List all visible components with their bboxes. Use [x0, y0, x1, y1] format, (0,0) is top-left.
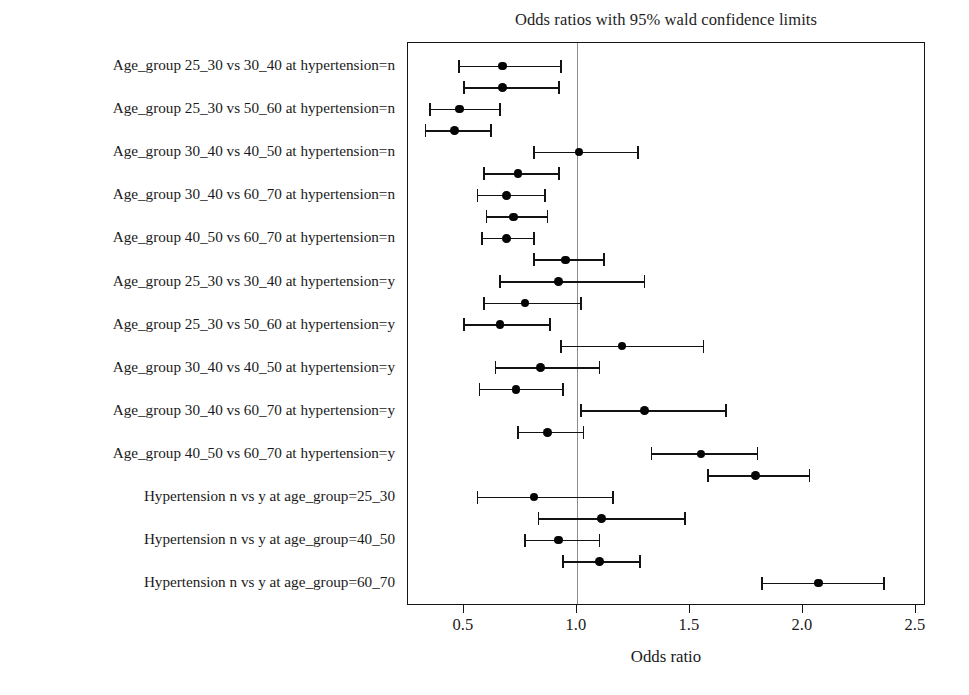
interval-lower-cap: [425, 124, 427, 137]
estimate-marker: [498, 62, 507, 71]
interval-upper-cap: [757, 447, 759, 460]
x-axis-tick-label: 1.0: [566, 615, 587, 635]
interval-upper-cap: [558, 81, 560, 94]
interval-upper-cap: [883, 577, 885, 590]
interval-line: [534, 152, 638, 154]
interval-upper-cap: [684, 512, 686, 525]
interval-lower-cap: [499, 275, 501, 288]
interval-lower-cap: [524, 534, 526, 547]
y-axis-label: Age_group 40_50 vs 60_70 at hypertension…: [113, 229, 395, 245]
y-axis-label-list: Age_group 25_30 vs 30_40 at hypertension…: [0, 0, 404, 695]
interval-line: [464, 87, 559, 89]
estimate-marker: [814, 579, 823, 588]
confidence-interval: [408, 318, 924, 331]
interval-lower-cap: [651, 447, 653, 460]
estimate-marker: [536, 363, 545, 372]
confidence-interval: [408, 361, 924, 374]
y-axis-label: Age_group 25_30 vs 50_60 at hypertension…: [113, 100, 395, 116]
estimate-marker: [543, 428, 552, 437]
x-axis-tick-label: 0.5: [453, 615, 474, 635]
estimate-marker: [496, 320, 505, 329]
interval-line: [477, 497, 613, 499]
interval-upper-cap: [637, 146, 639, 159]
plot-inner: [408, 43, 924, 604]
estimate-marker: [697, 450, 706, 459]
estimate-marker: [751, 471, 760, 480]
interval-upper-cap: [612, 491, 614, 504]
interval-lower-cap: [463, 318, 465, 331]
odds-ratio-forest-plot: Odds ratios with 95% wald confidence lim…: [0, 0, 969, 695]
interval-lower-cap: [483, 297, 485, 310]
estimate-marker: [502, 191, 511, 200]
y-axis-label: Age_group 40_50 vs 60_70 at hypertension…: [113, 445, 395, 461]
x-axis-tick: [689, 605, 691, 613]
confidence-interval: [408, 103, 924, 116]
confidence-interval: [408, 340, 924, 353]
x-axis-tick: [915, 605, 917, 613]
y-axis-label: Age_group 30_40 vs 40_50 at hypertension…: [113, 143, 395, 159]
interval-lower-cap: [463, 81, 465, 94]
estimate-marker: [597, 514, 606, 523]
interval-lower-cap: [533, 253, 535, 266]
interval-upper-cap: [547, 210, 549, 223]
estimate-marker: [640, 406, 649, 415]
interval-lower-cap: [560, 340, 562, 353]
interval-line: [538, 518, 685, 520]
plot-area: [407, 42, 925, 605]
confidence-interval: [408, 210, 924, 223]
interval-lower-cap: [761, 577, 763, 590]
interval-upper-cap: [558, 167, 560, 180]
estimate-marker: [514, 169, 523, 178]
confidence-interval: [408, 426, 924, 439]
interval-upper-cap: [544, 189, 546, 202]
x-axis-tick: [576, 605, 578, 613]
confidence-interval: [408, 167, 924, 180]
interval-upper-cap: [703, 340, 705, 353]
interval-upper-cap: [599, 361, 601, 374]
estimate-marker: [509, 213, 518, 222]
interval-lower-cap: [707, 469, 709, 482]
estimate-marker: [521, 299, 530, 308]
estimate-marker: [502, 234, 511, 243]
interval-lower-cap: [486, 210, 488, 223]
interval-lower-cap: [458, 60, 460, 73]
interval-line: [459, 66, 561, 68]
x-axis-tick-label: 2.0: [792, 615, 813, 635]
interval-line: [484, 303, 581, 305]
y-axis-label: Age_group 30_40 vs 60_70 at hypertension…: [113, 186, 395, 202]
interval-upper-cap: [533, 232, 535, 245]
confidence-interval: [408, 81, 924, 94]
estimate-marker: [561, 256, 570, 265]
interval-upper-cap: [580, 297, 582, 310]
interval-lower-cap: [517, 426, 519, 439]
y-axis-label: Age_group 30_40 vs 60_70 at hypertension…: [113, 402, 395, 418]
estimate-marker: [498, 83, 507, 92]
interval-lower-cap: [477, 491, 479, 504]
confidence-interval: [408, 189, 924, 202]
interval-upper-cap: [549, 318, 551, 331]
y-axis-label: Hypertension n vs y at age_group=40_50: [144, 531, 395, 547]
interval-upper-cap: [560, 60, 562, 73]
interval-upper-cap: [603, 253, 605, 266]
interval-upper-cap: [499, 103, 501, 116]
estimate-marker: [595, 557, 604, 566]
interval-lower-cap: [479, 383, 481, 396]
estimate-marker: [450, 126, 459, 135]
estimate-marker: [530, 493, 539, 502]
interval-lower-cap: [495, 361, 497, 374]
x-axis-tick: [802, 605, 804, 613]
confidence-interval: [408, 253, 924, 266]
confidence-interval: [408, 146, 924, 159]
interval-upper-cap: [639, 555, 641, 568]
confidence-interval: [408, 60, 924, 73]
y-axis-label: Hypertension n vs y at age_group=25_30: [144, 488, 395, 504]
confidence-interval: [408, 124, 924, 137]
confidence-interval: [408, 383, 924, 396]
x-axis-tick-label: 2.5: [905, 615, 926, 635]
interval-line: [477, 195, 545, 197]
confidence-interval: [408, 534, 924, 547]
interval-lower-cap: [481, 232, 483, 245]
y-axis-label: Age_group 30_40 vs 40_50 at hypertension…: [113, 359, 395, 375]
estimate-marker: [554, 277, 563, 286]
interval-line: [430, 109, 500, 111]
